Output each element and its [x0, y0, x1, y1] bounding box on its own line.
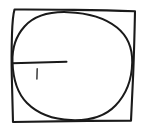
geometry-sketch: [0, 0, 142, 131]
canvas-background: [0, 0, 142, 131]
radius-line: [12, 62, 66, 63]
sketch-canvas: [0, 0, 142, 131]
